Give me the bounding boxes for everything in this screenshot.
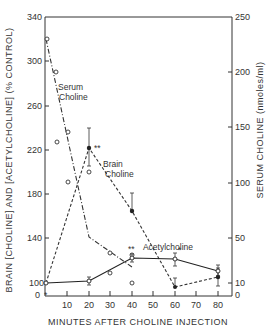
svg-text:200: 200: [235, 67, 250, 77]
left-axis-ticks: [45, 61, 49, 238]
plot-frame: [45, 17, 232, 296]
brain-significance: **: [94, 143, 101, 153]
x-axis-labels: 10 20 30 40 50 60 70 80: [62, 300, 223, 310]
chart: 340 300 260 220 180 140 100 0 250 200 15…: [0, 0, 274, 335]
right-axis-labels: 250 200 150 100 50 10 0: [235, 12, 250, 300]
svg-text:300: 300: [27, 56, 42, 66]
svg-text:50: 50: [235, 233, 245, 243]
svg-text:180: 180: [27, 189, 42, 199]
left-axis-labels: 340 300 260 220 180 140 100 0: [27, 12, 44, 300]
brain-choline-label-1: Brain: [103, 159, 123, 169]
svg-text:100: 100: [29, 278, 44, 288]
svg-text:150: 150: [235, 122, 250, 132]
svg-text:60: 60: [170, 300, 180, 310]
serum-choline-label-1: Serum: [58, 82, 83, 92]
svg-text:30: 30: [105, 300, 115, 310]
right-axis-title: SERUM CHOLINE (nmoles/ml): [255, 61, 265, 198]
x-axis-ticks: [67, 291, 218, 296]
x-axis-title: MINUTES AFTER CHOLINE INJECTION: [48, 317, 228, 327]
svg-text:250: 250: [235, 12, 250, 22]
serum-choline-label-2: Choline: [59, 92, 88, 102]
acetylcholine-errorbars: [87, 253, 220, 285]
right-axis-ticks: [228, 72, 232, 283]
svg-text:70: 70: [191, 300, 201, 310]
brain-choline-label-2: Choline: [105, 169, 134, 179]
svg-text:0: 0: [35, 290, 40, 300]
svg-text:10: 10: [62, 300, 72, 310]
svg-text:0: 0: [235, 290, 240, 300]
left-axis-title: BRAIN [CHOLINE] AND [ACETYLCHOLINE] (% C…: [4, 27, 14, 292]
svg-text:80: 80: [213, 300, 223, 310]
svg-text:40: 40: [127, 300, 137, 310]
svg-text:100: 100: [235, 178, 250, 188]
origin-marker: *: [44, 290, 48, 300]
acetylcholine-label: Acetylcholine: [143, 242, 193, 252]
svg-text:140: 140: [27, 233, 42, 243]
svg-text:340: 340: [27, 12, 42, 22]
brain-choline-errorbars: [87, 128, 220, 287]
svg-text:10: 10: [235, 278, 245, 288]
svg-text:260: 260: [27, 101, 42, 111]
svg-text:50: 50: [148, 300, 158, 310]
svg-text:220: 220: [27, 145, 42, 155]
ach-significance-40: **: [128, 244, 135, 254]
svg-text:20: 20: [84, 300, 94, 310]
